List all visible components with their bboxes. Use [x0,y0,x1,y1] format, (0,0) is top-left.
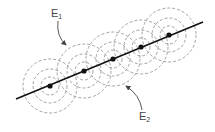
main-line [16,22,203,99]
point-dot [47,83,52,88]
point-dot [138,44,143,49]
point-dot [166,32,171,37]
point-dot [81,68,86,73]
E2-arrow-icon [126,86,142,110]
label-e2: E2 [139,111,150,123]
diagram-canvas [0,0,215,132]
label-e2-sub: 2 [146,116,150,123]
label-e1: E1 [51,8,62,20]
E1-arrow-icon [58,21,66,45]
label-e1-sub: 1 [58,13,62,20]
point-dot [110,56,115,61]
